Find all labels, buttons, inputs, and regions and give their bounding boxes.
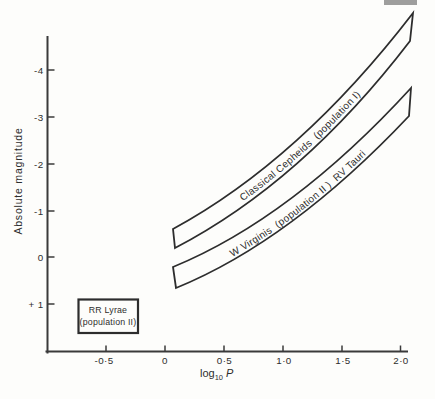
period-luminosity-diagram: -4 -3 -2 -1 0 + 1 -0·5 0 0·5 1 [0, 0, 435, 399]
y-tick-label: 0 [38, 252, 44, 263]
y-tick-label: + 1 [28, 299, 43, 310]
y-tick-label: -1 [34, 206, 44, 217]
x-tick-label: 2·0 [393, 355, 409, 366]
y-axis-title: Absolute magnitude [12, 127, 24, 234]
y-tick-label: -4 [34, 65, 44, 76]
x-tick-label: 1·5 [335, 355, 351, 366]
y-tick-label: -3 [34, 112, 44, 123]
x-tick-label: 1·0 [276, 355, 292, 366]
y-axis-tick-labels: -4 -3 -2 -1 0 + 1 [28, 65, 43, 310]
y-axis-ticks [48, 70, 55, 304]
y-tick-label: -2 [34, 159, 44, 170]
w-virginis-rv-tauri-band [173, 88, 411, 288]
x-tick-label: 0 [162, 355, 168, 366]
rr-lyrae-annotation: RR Lyrae (population II) [79, 300, 139, 334]
figure-scan: -4 -3 -2 -1 0 + 1 -0·5 0 0·5 1 [0, 0, 435, 399]
x-tick-label: 0·5 [217, 355, 233, 366]
rr-lyrae-label-line1: RR Lyrae [89, 305, 127, 315]
classical-cepheids-band-label-text: Classical Cepheids (population I) [238, 88, 363, 202]
variable-star-bands: Classical Cepheids (population I) W Virg… [173, 13, 413, 288]
rr-lyrae-label-line2: (population II) [80, 317, 137, 327]
scan-artifact-mark [384, 0, 417, 5]
x-axis-title: log10 P [200, 367, 234, 383]
x-axis-title-variable: P [223, 367, 234, 379]
x-tick-label: -0·5 [94, 355, 113, 366]
x-axis-title-base: log [200, 367, 215, 379]
x-axis-title-subscript: 10 [215, 373, 223, 382]
classical-cepheids-band-label: Classical Cepheids (population I) [238, 88, 363, 202]
x-axis-tick-labels: -0·5 0 0·5 1·0 1·5 2·0 [94, 355, 408, 366]
